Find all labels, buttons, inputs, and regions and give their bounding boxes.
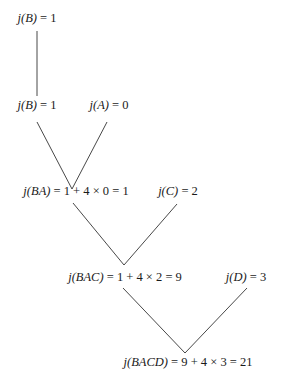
edge-n5-n6 xyxy=(124,204,177,265)
node-j-bac: j(BAC) = 1 + 4 × 2 = 9 xyxy=(68,270,182,284)
edge-n6-n8 xyxy=(123,288,185,353)
edge-n4-n6 xyxy=(73,203,124,265)
node-j-ba: j(BA) = 1 + 4 × 0 = 1 xyxy=(23,184,128,198)
edge-n3-n4 xyxy=(72,122,107,189)
node-j-a: j(A) = 0 xyxy=(90,98,129,112)
node-j-b: j(B) = 1 xyxy=(18,98,57,112)
edge-n7-n8 xyxy=(185,288,247,353)
node-j-d: j(D) = 3 xyxy=(226,270,266,284)
node-j-b-root: j(B) = 1 xyxy=(18,11,57,25)
edge-n2-n4 xyxy=(37,122,72,189)
node-j-c: j(C) = 2 xyxy=(158,184,198,198)
node-j-bacd: j(BACD) = 9 + 4 × 3 = 21 xyxy=(124,355,253,369)
